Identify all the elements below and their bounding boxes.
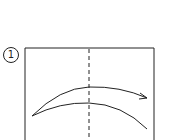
origami-diagram xyxy=(0,0,189,140)
